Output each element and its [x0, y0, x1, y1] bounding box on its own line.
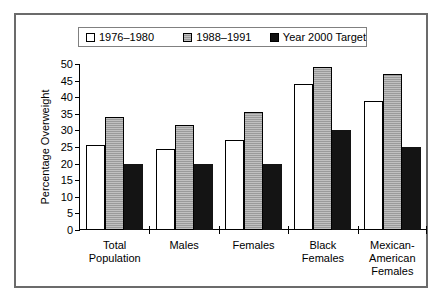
bar — [105, 117, 124, 230]
y-axis-tick-mark — [75, 230, 80, 231]
y-axis-tick-label: 45 — [61, 75, 73, 87]
y-axis-title: Percentage Overweight — [38, 64, 52, 230]
legend-item-1988-1991: 1988–1991 — [183, 28, 270, 46]
y-axis-tick-label: 50 — [61, 58, 73, 70]
bar-group-bars — [156, 64, 213, 230]
bar — [175, 125, 194, 230]
bar — [156, 149, 175, 230]
bar-group: Total Population — [80, 64, 149, 230]
legend-label: Year 2000 Target — [283, 32, 366, 43]
x-axis-tick-mark — [426, 226, 427, 234]
legend-item-year-2000-target: Year 2000 Target — [270, 28, 366, 46]
bar-group-bars — [86, 64, 143, 230]
legend-item-1976-1980: 1976–1980 — [79, 28, 183, 46]
legend-swatch-gray-icon — [183, 33, 192, 42]
y-axis-title-text: Percentage Overweight — [39, 90, 51, 205]
y-axis-tick-label: 20 — [61, 158, 73, 170]
bar — [313, 67, 332, 230]
x-axis-category-label: Mexican- American Females — [346, 239, 438, 278]
bar-group-bars — [225, 64, 282, 230]
legend-label: 1976–1980 — [99, 32, 154, 43]
legend-swatch-white-icon — [86, 33, 95, 42]
legend-swatch-black-icon — [270, 33, 279, 42]
bar — [86, 145, 105, 230]
chart-legend: 1976–1980 1988–1991 Year 2000 Target — [78, 27, 367, 47]
y-axis-tick-label: 0 — [67, 224, 73, 236]
bar — [263, 164, 282, 230]
x-axis-tick-mark — [358, 226, 359, 234]
bar — [402, 147, 421, 230]
plot-area: 05101520253035404550 Total PopulationMal… — [79, 64, 427, 230]
bar — [194, 164, 213, 230]
x-axis-tick-mark — [219, 226, 220, 234]
x-axis-tick-mark — [149, 226, 150, 234]
y-axis-tick-label: 15 — [61, 174, 73, 186]
bar-group: Females — [219, 64, 288, 230]
bar — [124, 164, 143, 230]
bar — [294, 84, 313, 230]
y-axis-tick-label: 30 — [61, 124, 73, 136]
legend-label: 1988–1991 — [196, 32, 251, 43]
bar-groups: Total PopulationMalesFemalesBlack Female… — [80, 64, 427, 230]
bar-group: Males — [149, 64, 218, 230]
y-axis-tick-label: 10 — [61, 191, 73, 203]
y-axis-tick-label: 5 — [67, 207, 73, 219]
bar-group: Black Females — [288, 64, 357, 230]
bar — [332, 130, 351, 230]
bar — [383, 74, 402, 230]
bar — [225, 140, 244, 230]
y-axis-tick-label: 40 — [61, 91, 73, 103]
y-axis-tick-label: 25 — [61, 141, 73, 153]
x-axis-tick-mark — [288, 226, 289, 234]
bar — [364, 101, 383, 230]
bar-group: Mexican- American Females — [358, 64, 427, 230]
bar-group-bars — [364, 64, 421, 230]
y-axis-tick-label: 35 — [61, 108, 73, 120]
bar-group-bars — [294, 64, 351, 230]
chart-frame: 1976–1980 1988–1991 Year 2000 Target Per… — [14, 13, 428, 288]
bar — [244, 112, 263, 230]
